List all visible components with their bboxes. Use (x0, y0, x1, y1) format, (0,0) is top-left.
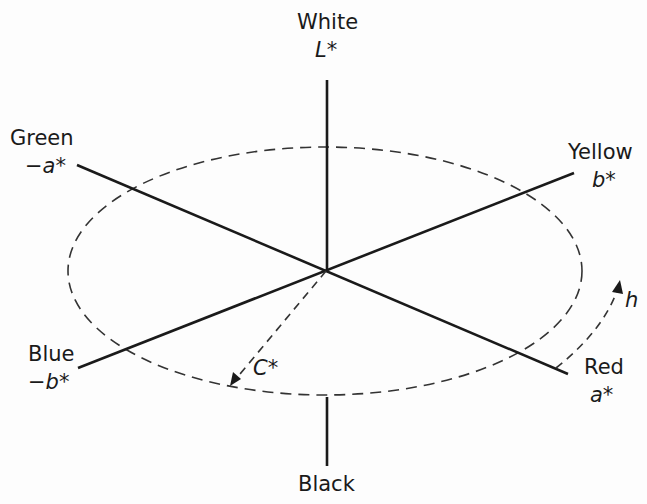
symbol-neg-b-star: −b* (28, 370, 69, 394)
symbol-l-star: L* (315, 38, 337, 62)
hue-arrowhead (612, 280, 623, 294)
symbol-b-star: b* (592, 168, 616, 192)
symbol-a-star: a* (590, 383, 613, 407)
label-red: Red (584, 355, 624, 379)
symbol-neg-a-star: −a* (25, 154, 66, 178)
label-blue: Blue (28, 342, 74, 366)
chroma-arrowhead (230, 372, 241, 386)
label-white: White (297, 10, 358, 34)
label-green: Green (10, 126, 74, 150)
label-yellow: Yellow (568, 140, 633, 164)
symbol-chroma: C* (253, 356, 278, 380)
symbol-hue: h (625, 288, 638, 312)
a-axis (77, 165, 568, 374)
diagram-graphics (0, 0, 647, 504)
cielab-diagram: White L* Black Green −a* Red a* Yellow b… (0, 0, 647, 504)
label-black: Black (298, 472, 355, 496)
